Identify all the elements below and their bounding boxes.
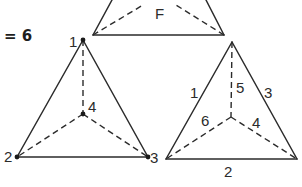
right-tet-edge-center-left: [166, 117, 231, 159]
left-tet-edge-4-2: [17, 114, 83, 157]
vertex-label-center: 4: [88, 98, 96, 115]
diagram-canvas: = 6 F 1 4 2 3 1 5 3 6 4: [0, 0, 302, 187]
vertex-label-top: 1: [69, 33, 77, 50]
top-partial-tetrahedron: F: [93, 0, 224, 35]
vertex-label-bottom-left: 2: [4, 148, 12, 165]
edge-label-center-right: 4: [252, 114, 260, 131]
vertex-label-bottom-right: 3: [150, 149, 158, 166]
left-tet-edge-1-2: [17, 40, 83, 157]
edge-label-vertical: 5: [236, 79, 244, 96]
vertex-dot-2: [15, 155, 20, 160]
face-label-f: F: [155, 5, 164, 22]
edge-label-bottom: 2: [224, 163, 232, 180]
right-tet-edge-left: [166, 42, 232, 159]
vertex-dot-4: [81, 112, 86, 117]
right-tet-edge-center-right: [231, 117, 297, 159]
equation-text: = 6: [4, 27, 32, 45]
edge-label-right: 3: [264, 84, 272, 101]
left-tet-edge-4-3: [83, 114, 148, 157]
edge-label-center-left: 6: [201, 112, 209, 129]
right-tetrahedron: 1 5 3 6 4 2: [166, 42, 297, 180]
vertex-dot-1: [81, 38, 86, 43]
right-tet-edge-vertical: [231, 42, 232, 117]
left-tetrahedron: 1 4 2 3: [4, 33, 158, 166]
edge-label-left: 1: [190, 84, 198, 101]
